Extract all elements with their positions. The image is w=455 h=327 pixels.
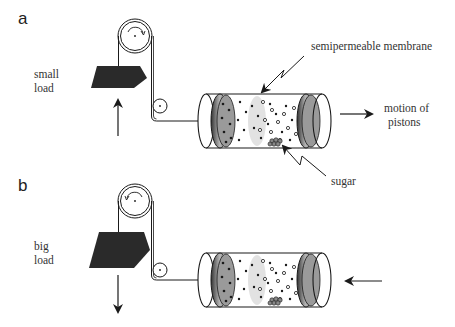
small-load-icon bbox=[91, 66, 147, 88]
lower-pulley-a-icon bbox=[153, 99, 167, 113]
panel-b: b big load bbox=[18, 176, 382, 312]
upper-pulley-b-icon bbox=[118, 184, 152, 218]
load-label-b-line1: big bbox=[34, 240, 49, 253]
motion-label-line2: pistons bbox=[388, 116, 421, 129]
big-load-icon bbox=[89, 232, 150, 268]
sugar-label: sugar bbox=[331, 175, 356, 188]
panel-label-a: a bbox=[18, 9, 28, 28]
cylinder-b bbox=[198, 253, 331, 307]
osmosis-diagram: a small load motion of pistons bbox=[0, 0, 455, 327]
panel-label-b: b bbox=[18, 176, 27, 195]
lower-pulley-b-icon bbox=[153, 263, 167, 277]
panel-a: a small load motion of pistons bbox=[18, 9, 432, 188]
load-label-b-line2: load bbox=[34, 254, 54, 266]
upper-pulley-a-icon bbox=[118, 19, 152, 53]
sugar-pointer-icon bbox=[283, 146, 326, 176]
cylinder-a bbox=[198, 94, 331, 148]
motion-label-line1: motion of bbox=[384, 102, 429, 114]
load-label-a-line2: load bbox=[34, 82, 54, 94]
membrane-pointer-icon bbox=[262, 56, 304, 92]
load-label-a-line1: small bbox=[34, 68, 59, 80]
membrane-label: semipermeable membrane bbox=[311, 40, 432, 53]
